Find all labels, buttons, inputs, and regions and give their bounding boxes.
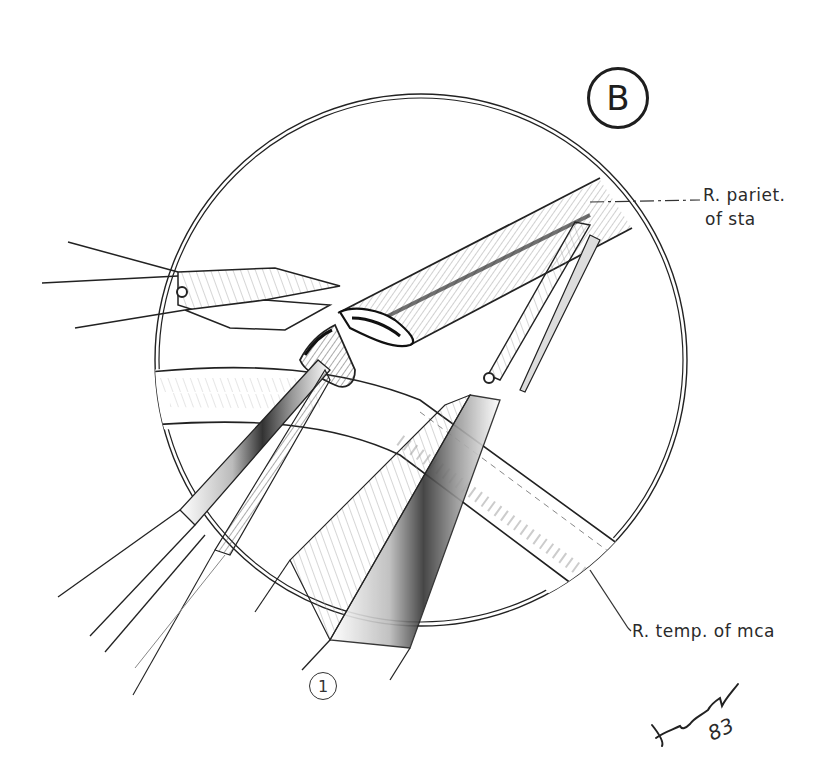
parietal-branch-label: R. pariet. of sta — [703, 186, 785, 229]
parietal-label-line1: R. pariet. — [703, 186, 785, 206]
panel-label-text: B — [606, 78, 629, 118]
parietal-label-line2: of sta — [703, 210, 785, 230]
leader-lines — [590, 200, 700, 631]
panel-label-badge: B — [587, 67, 649, 129]
step-marker-badge: 1 — [309, 672, 337, 700]
temporal-branch-label: R. temp. of mca — [632, 622, 775, 642]
surgical-illustration: B R. pariet. of sta R. temp. of mca 1 83 — [0, 0, 822, 783]
artist-signature: 83 — [650, 680, 760, 760]
handwritten-signature-icon — [650, 680, 760, 760]
illustration-drawing — [0, 0, 822, 783]
step-marker-text: 1 — [318, 677, 328, 696]
scissors-upper — [42, 242, 340, 330]
